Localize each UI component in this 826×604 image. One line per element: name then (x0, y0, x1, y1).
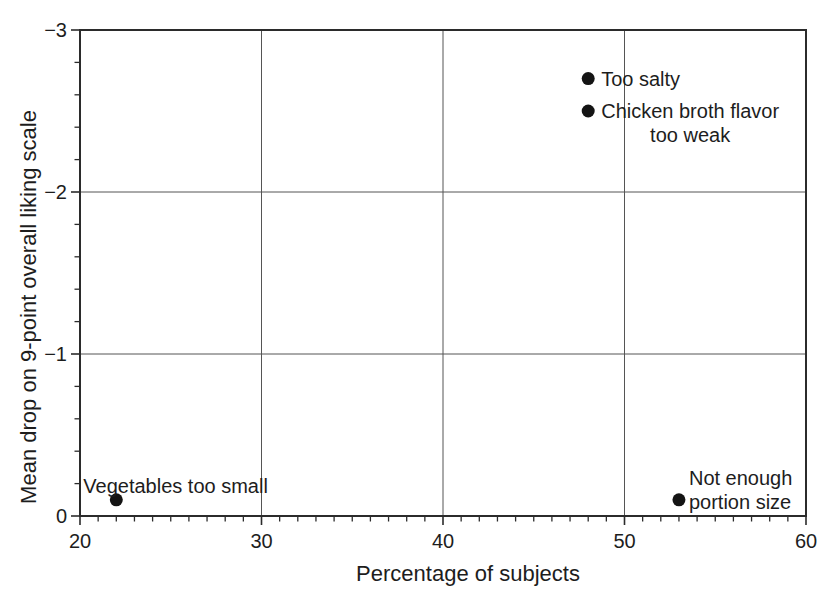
x-tick-label: 30 (250, 530, 272, 552)
y-axis-title: Mean drop on 9-point overall liking scal… (16, 110, 42, 504)
scatter-plot-figure: 20304050600−1−2−3 Too saltyChicken broth… (0, 0, 826, 604)
x-tick-label: 40 (432, 530, 454, 552)
data-point (582, 105, 595, 118)
x-axis-title: Percentage of subjects (356, 561, 580, 587)
data-point (672, 493, 685, 506)
y-tick-label: −1 (44, 343, 67, 365)
y-tick-label: −2 (44, 181, 67, 203)
y-tick-label: −3 (44, 19, 67, 41)
x-tick-label: 60 (795, 530, 817, 552)
plot-area: 20304050600−1−2−3 (0, 0, 826, 604)
data-point (110, 493, 123, 506)
data-point (582, 72, 595, 85)
y-tick-label: 0 (56, 505, 67, 527)
x-tick-label: 20 (69, 530, 91, 552)
x-tick-label: 50 (613, 530, 635, 552)
